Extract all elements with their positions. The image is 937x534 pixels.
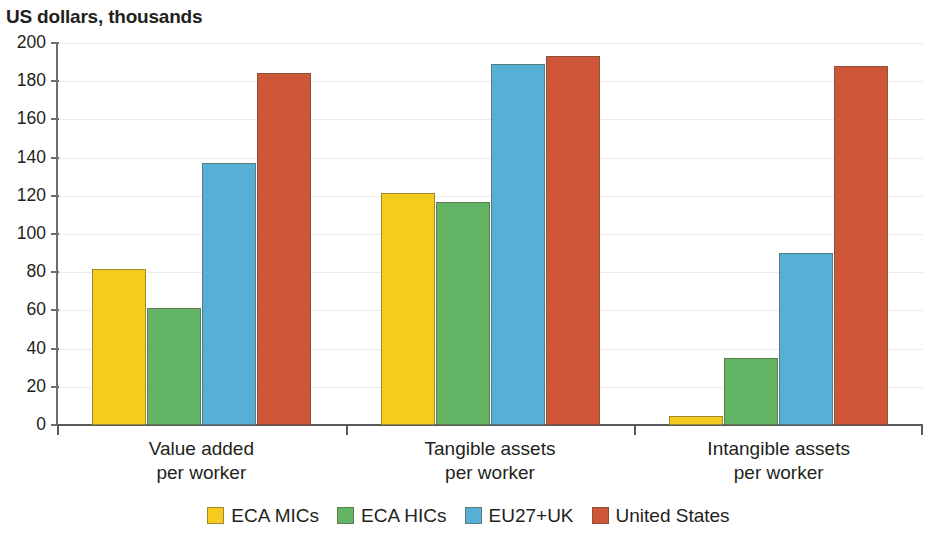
category-separator (346, 425, 348, 435)
bar (436, 202, 490, 425)
legend-item[interactable]: United States (592, 506, 730, 525)
category-label-line: per worker (634, 461, 923, 485)
bar (724, 358, 778, 425)
bars-layer (57, 43, 923, 425)
category-label: Value addedper worker (57, 437, 346, 485)
legend-swatch-icon (207, 507, 224, 524)
bar (669, 416, 723, 425)
legend-swatch-icon (592, 507, 609, 524)
legend-item[interactable]: ECA MICs (207, 506, 319, 525)
category-label: Tangible assetsper worker (346, 437, 635, 485)
legend-swatch-icon (337, 507, 354, 524)
category-separator (634, 425, 636, 435)
chart-title: US dollars, thousands (6, 6, 202, 28)
bar (257, 73, 311, 425)
category-label-line: Intangible assets (634, 437, 923, 461)
bar (147, 308, 201, 425)
x-axis-end-tick-right (921, 425, 923, 435)
bar (381, 193, 435, 425)
category-label: Intangible assetsper worker (634, 437, 923, 485)
y-axis-ticks (0, 43, 60, 426)
category-label-line: per worker (57, 461, 346, 485)
legend-label: ECA HICs (361, 506, 447, 525)
bar (491, 64, 545, 425)
bar (779, 253, 833, 425)
bar (834, 66, 888, 425)
category-label-line: Value added (57, 437, 346, 461)
bar (546, 56, 600, 425)
legend-swatch-icon (465, 507, 482, 524)
legend-label: EU27+UK (489, 506, 574, 525)
legend-item[interactable]: EU27+UK (465, 506, 574, 525)
bar-chart: US dollars, thousands 020406080100120140… (0, 0, 937, 534)
chart-legend: ECA MICsECA HICsEU27+UKUnited States (0, 500, 937, 530)
x-axis-end-tick-left (57, 425, 59, 435)
legend-item[interactable]: ECA HICs (337, 506, 447, 525)
category-label-line: per worker (346, 461, 635, 485)
bar (202, 163, 256, 425)
legend-label: ECA MICs (231, 506, 319, 525)
bar (92, 269, 146, 425)
category-label-line: Tangible assets (346, 437, 635, 461)
x-axis-category-labels: Value addedper workerTangible assetsper … (57, 437, 923, 495)
legend-label: United States (616, 506, 730, 525)
